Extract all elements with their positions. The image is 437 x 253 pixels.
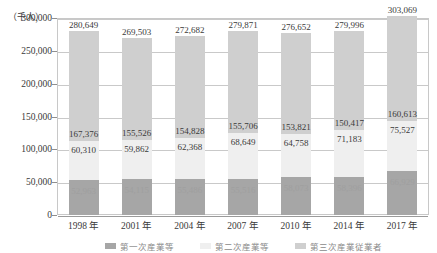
value-label-secondary: 62,368: [177, 142, 202, 152]
y-tick-label-300000: 300,000: [21, 13, 52, 23]
value-label-primary: 55,486: [177, 185, 202, 195]
value-label-secondary: 60,310: [71, 145, 96, 155]
x-tick-label: 2017 年: [387, 218, 418, 232]
legend-swatch: [200, 243, 211, 249]
legend-label: 第一次産業等: [120, 240, 174, 252]
chart-legend: 第一次産業等第二次産業等第三次産業従業者: [57, 240, 429, 253]
value-label-secondary: 64,758: [284, 138, 309, 148]
value-label-total: 276,652: [282, 22, 311, 32]
gridline-0: [58, 216, 428, 217]
value-label-total: 279,871: [228, 20, 257, 30]
bar-segment-tertiary: [387, 16, 417, 121]
legend-swatch: [295, 243, 306, 249]
value-label-secondary: 68,649: [231, 137, 256, 147]
bar-segment-tertiary: [281, 33, 311, 134]
y-tick-label-200000: 200,000: [21, 79, 52, 89]
x-tick-label: 1998 年: [68, 218, 99, 232]
value-label-primary: 54,115: [124, 185, 148, 195]
value-label-total: 269,503: [122, 27, 151, 37]
legend-swatch: [105, 243, 116, 249]
bar-segment-tertiary: [69, 31, 99, 141]
x-axis-tick-labels: 1998 年2001 年2004 年2007 年2010 年2014 年2017…: [57, 218, 429, 234]
value-label-tertiary: 160,613: [388, 109, 417, 119]
y-tick-label-250000: 250,000: [21, 46, 52, 56]
x-tick-label: 2010 年: [280, 218, 311, 232]
y-tick-label-50000: 50,000: [26, 177, 52, 187]
y-axis-tick-labels: 050,000100,000150,000200,000250,000300,0…: [0, 18, 52, 215]
value-label-total: 279,996: [335, 20, 364, 30]
legend-item: 第一次産業等: [105, 240, 174, 252]
value-label-tertiary: 155,526: [122, 128, 151, 138]
value-label-total: 303,069: [388, 5, 417, 15]
y-tick-mark-0: [52, 215, 57, 216]
value-label-secondary: 59,862: [124, 144, 149, 154]
value-label-primary: 55,516: [231, 185, 256, 195]
bar-segment-tertiary: [334, 31, 364, 130]
legend-label: 第三次産業従業者: [310, 240, 382, 252]
value-label-tertiary: 155,706: [228, 121, 257, 131]
legend-label: 第二次産業等: [215, 240, 269, 252]
bar-segment-tertiary: [175, 36, 205, 138]
y-tick-label-100000: 100,000: [21, 144, 52, 154]
x-tick-label: 2004 年: [174, 218, 205, 232]
value-label-primary: 66,929: [390, 177, 415, 187]
x-tick-label: 2001 年: [121, 218, 152, 232]
value-label-secondary: 75,527: [390, 125, 415, 135]
bars-layer: 280,649167,37660,31052,963269,503155,526…: [57, 18, 429, 215]
stacked-column-chart-figure: （千人） 050,000100,000150,000200,000250,000…: [0, 0, 437, 253]
bar-segment-tertiary: [122, 38, 152, 140]
value-label-tertiary: 150,417: [335, 118, 364, 128]
value-label-tertiary: 154,828: [175, 126, 204, 136]
value-label-total: 272,682: [175, 25, 204, 35]
x-tick-label: 2014 年: [334, 218, 365, 232]
legend-item: 第二次産業等: [200, 240, 269, 252]
value-label-primary: 58,396: [337, 183, 362, 193]
value-label-total: 280,649: [69, 20, 98, 30]
value-label-primary: 52,963: [71, 186, 96, 196]
legend-item: 第三次産業従業者: [295, 240, 382, 252]
value-label-secondary: 71,183: [337, 134, 362, 144]
value-label-tertiary: 153,821: [282, 122, 311, 132]
y-tick-label-150000: 150,000: [21, 112, 52, 122]
x-tick-label: 2007 年: [227, 218, 258, 232]
value-label-tertiary: 167,376: [69, 129, 98, 139]
value-label-primary: 58,073: [284, 183, 309, 193]
bar-segment-tertiary: [228, 31, 258, 133]
